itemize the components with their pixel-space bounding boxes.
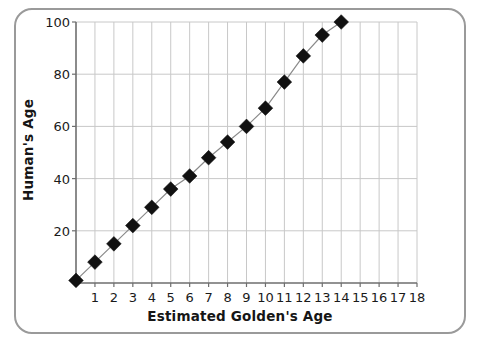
axis-ticks — [72, 22, 417, 287]
x-tick-label: 13 — [314, 290, 331, 305]
x-tick-label: 4 — [148, 290, 156, 305]
y-axis-title: Human's Age — [20, 70, 36, 230]
x-tick-label: 7 — [204, 290, 212, 305]
x-tick-label: 2 — [110, 290, 118, 305]
x-tick-label: 15 — [352, 290, 369, 305]
x-tick-label: 3 — [129, 290, 137, 305]
x-tick-label: 14 — [333, 290, 350, 305]
x-tick-label: 1 — [91, 290, 99, 305]
x-tick-label: 17 — [390, 290, 407, 305]
x-tick-label: 12 — [295, 290, 312, 305]
x-tick-label: 18 — [409, 290, 426, 305]
gridlines — [76, 22, 417, 283]
x-tick-label: 6 — [186, 290, 194, 305]
x-tick-label: 8 — [223, 290, 231, 305]
x-axis-title: Estimated Golden's Age — [0, 308, 480, 324]
y-tick-label: 100 — [28, 15, 70, 30]
x-tick-label: 11 — [276, 290, 293, 305]
x-tick-label: 5 — [167, 290, 175, 305]
x-tick-label: 10 — [257, 290, 274, 305]
x-tick-label: 9 — [242, 290, 250, 305]
x-tick-label: 16 — [371, 290, 388, 305]
chart-plot-container: 20406080100 123456789101112131415161718 … — [0, 0, 480, 344]
